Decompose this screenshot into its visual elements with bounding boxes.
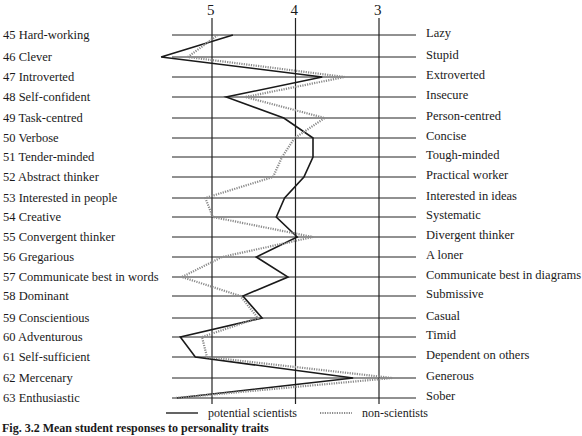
right-trait-label: Casual — [426, 309, 460, 323]
left-trait-label: 62 Mercenary — [3, 371, 73, 385]
left-trait-label: 55 Convergent thinker — [3, 230, 115, 244]
left-trait-label: 57 Communicate best in words — [3, 270, 159, 284]
chart-grid — [172, 18, 416, 404]
left-trait-label: 58 Dominant — [3, 289, 69, 303]
right-trait-label: Communicate best in diagrams — [426, 268, 581, 282]
right-trait-label: Systematic — [426, 208, 481, 222]
right-trait-label: Divergent thinker — [426, 228, 514, 242]
right-trait-label: Tough-minded — [426, 148, 499, 162]
left-trait-label: 45 Hard-working — [3, 28, 89, 42]
right-trait-label: Timid — [426, 328, 456, 342]
legend-dotted-label: non-scientists — [362, 406, 428, 420]
left-trait-label: 46 Clever — [3, 50, 52, 64]
x-tick-label: 5 — [207, 2, 215, 18]
right-trait-label: Person-centred — [426, 109, 501, 123]
x-tick-label: 3 — [374, 2, 382, 18]
right-trait-label: Sober — [426, 389, 455, 403]
left-trait-label: 60 Adventurous — [3, 330, 83, 344]
left-trait-label: 48 Self-confident — [3, 90, 90, 104]
right-trait-label: A loner — [426, 248, 463, 262]
left-trait-label: 49 Task-centred — [3, 111, 83, 125]
right-trait-label: Submissive — [426, 287, 484, 301]
left-trait-label: 59 Conscientious — [3, 311, 89, 325]
legend-solid-label: potential scientists — [208, 406, 297, 420]
figure-caption: Fig. 3.2 Mean student responses to perso… — [2, 421, 269, 436]
left-trait-label: 50 Verbose — [3, 131, 59, 145]
right-trait-label: Stupid — [426, 48, 459, 62]
right-trait-label: Dependent on others — [426, 348, 529, 362]
left-trait-label: 52 Abstract thinker — [3, 170, 99, 184]
left-trait-label: 63 Enthusiastic — [3, 391, 80, 405]
left-trait-label: 53 Interested in people — [3, 191, 117, 205]
left-trait-label: 56 Gregarious — [3, 250, 74, 264]
right-trait-label: Extroverted — [426, 68, 485, 82]
right-trait-label: Interested in ideas — [426, 189, 517, 203]
right-trait-label: Generous — [426, 369, 474, 383]
right-trait-label: Lazy — [426, 26, 451, 40]
x-tick-label: 4 — [291, 2, 299, 18]
left-trait-label: 47 Introverted — [3, 70, 74, 84]
right-trait-label: Concise — [426, 129, 466, 143]
right-trait-label: Insecure — [426, 88, 468, 102]
left-trait-label: 54 Creative — [3, 210, 61, 224]
right-trait-label: Practical worker — [426, 168, 508, 182]
left-trait-label: 51 Tender-minded — [3, 150, 94, 164]
left-trait-label: 61 Self-sufficient — [3, 350, 90, 364]
